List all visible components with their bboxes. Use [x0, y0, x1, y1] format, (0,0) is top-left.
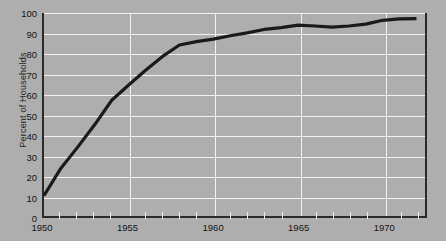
chart-figure: Percent of Households 010203040506070809… [0, 0, 446, 248]
x-tick-mark [162, 212, 163, 219]
x-tick-mark [333, 212, 334, 219]
y-tick-label: 50 [7, 110, 37, 121]
y-tick-label: 60 [7, 90, 37, 101]
x-tick-mark [179, 212, 180, 219]
x-tick-label: 1970 [364, 222, 404, 233]
y-tick-label: 10 [7, 192, 37, 203]
plot-frame [42, 13, 427, 218]
x-tick-mark [316, 212, 317, 219]
y-tick-label: 80 [7, 49, 37, 60]
x-tick-mark [145, 212, 146, 219]
x-tick-mark [367, 212, 368, 219]
data-series-line [44, 13, 425, 216]
x-tick-label: 1955 [108, 222, 148, 233]
x-tick-mark [401, 212, 402, 219]
x-tick-mark [110, 212, 111, 219]
x-tick-mark [76, 212, 77, 219]
x-tick-mark [247, 212, 248, 219]
y-tick-label: 70 [7, 69, 37, 80]
figure-bottom-margin [0, 241, 446, 248]
y-tick-label: 20 [7, 172, 37, 183]
x-tick-label: 1965 [279, 222, 319, 233]
x-tick-mark [350, 212, 351, 219]
x-tick-label: 1950 [22, 222, 62, 233]
x-tick-mark [93, 212, 94, 219]
x-tick-mark [230, 212, 231, 219]
y-tick-label: 40 [7, 131, 37, 142]
x-tick-mark [59, 212, 60, 219]
x-tick-mark [282, 212, 283, 219]
plot-area [42, 13, 427, 218]
y-tick-label: 30 [7, 151, 37, 162]
y-tick-label: 100 [7, 8, 37, 19]
x-tick-mark [418, 212, 419, 219]
y-tick-label: 90 [7, 28, 37, 39]
x-tick-label: 1960 [193, 222, 233, 233]
x-tick-mark [264, 212, 265, 219]
x-tick-mark [196, 212, 197, 219]
y-axis-tick-labels: 0102030405060708090100 [0, 13, 42, 218]
